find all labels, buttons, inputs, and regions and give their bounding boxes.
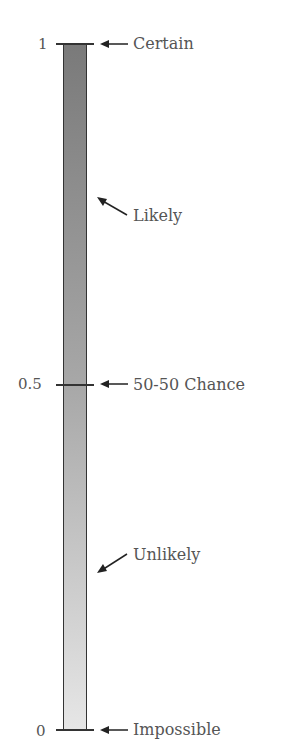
label-unlikely: Unlikely [133,545,200,564]
label-50-50-chance: 50-50 Chance [133,375,245,394]
arrow-left-icon [100,378,130,390]
tick-0-5 [56,384,94,386]
probability-bar [63,44,87,730]
tick-1 [56,43,94,45]
label-certain: Certain [133,34,194,53]
label-likely: Likely [133,206,182,225]
label-impossible: Impossible [133,720,221,739]
tick-value-0: 0 [36,722,46,740]
arrow-diagonal-icon [97,552,129,574]
tick-0 [56,729,94,731]
arrow-left-icon [100,38,130,50]
arrow-diagonal-icon [97,197,129,217]
arrow-left-icon [100,724,130,736]
tick-value-0-5: 0.5 [18,375,42,393]
tick-value-1: 1 [38,35,48,53]
